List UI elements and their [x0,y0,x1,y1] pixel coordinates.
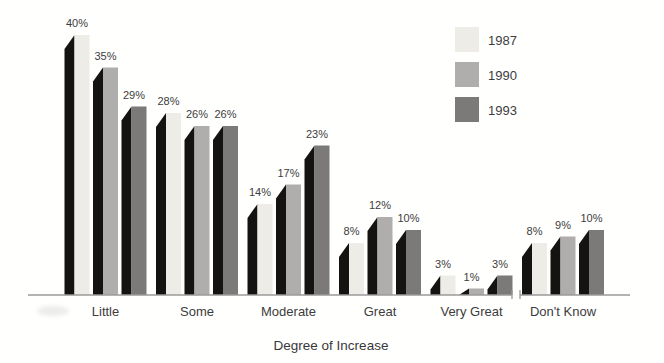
legend-label-1987: 1987 [488,33,517,48]
x-tick-label-moderate: Moderate [261,304,316,319]
value-label-don-t-know-1987: 8% [527,225,543,237]
bar-very-great-1993 [498,276,513,296]
bar-moderate-1993 [315,146,330,296]
bar-shadow-great-1987 [339,243,349,295]
value-label-don-t-know-1993: 10% [580,212,602,224]
value-label-some-1990: 26% [186,108,208,120]
legend-swatch-1990 [455,62,479,87]
bar-don-t-know-1993 [589,230,604,295]
bar-great-1993 [406,230,421,295]
bar-great-1990 [378,217,393,295]
value-label-some-1987: 28% [157,95,179,107]
value-label-moderate-1987: 14% [249,186,271,198]
value-label-little-1987: 40% [66,17,88,29]
x-tick-label-little: Little [92,304,119,319]
bar-shadow-very-great-1990 [459,289,469,296]
value-label-very-great-1990: 1% [464,271,480,283]
bar-little-1990 [103,68,118,296]
legend-item-1987: 1987 [455,27,517,52]
bar-little-1987 [75,35,90,295]
bar-great-1987 [349,243,364,295]
bar-shadow-great-1990 [368,217,378,295]
value-label-little-1993: 29% [123,89,145,101]
bar-some-1987 [166,113,181,295]
value-label-great-1990: 12% [369,199,391,211]
bar-shadow-great-1993 [396,230,406,295]
bar-don-t-know-1990 [561,237,576,296]
legend-label-1990: 1990 [488,68,517,83]
bar-shadow-some-1990 [185,126,195,295]
bars-layer: 40%35%29%28%26%26%14%17%23%8%12%10%3%1%3… [65,17,605,295]
bar-shadow-don-t-know-1993 [579,230,589,295]
legend-item-1993: 1993 [455,97,517,122]
value-label-moderate-1993: 23% [306,128,328,140]
bar-shadow-very-great-1987 [431,276,441,296]
x-axis-title: Degree of Increase [274,338,389,353]
legend-swatch-1993 [455,97,479,122]
bar-moderate-1987 [258,204,273,295]
value-label-some-1993: 26% [214,108,236,120]
bar-some-1990 [195,126,210,295]
bar-chart: 40%35%29%28%26%26%14%17%23%8%12%10%3%1%3… [0,0,664,363]
value-label-great-1993: 10% [397,212,419,224]
bar-shadow-very-great-1993 [488,276,498,296]
bar-shadow-moderate-1987 [248,204,258,295]
legend-label-1993: 1993 [488,103,517,118]
bar-shadow-moderate-1990 [276,185,286,296]
bar-shadow-some-1987 [156,113,166,295]
bar-don-t-know-1987 [532,243,547,295]
bar-very-great-1990 [469,289,484,296]
bar-shadow-don-t-know-1990 [551,237,561,296]
bar-very-great-1987 [441,276,456,296]
bar-shadow-little-1993 [122,107,132,296]
bar-moderate-1990 [286,185,301,296]
bar-shadow-don-t-know-1987 [522,243,532,295]
x-tick-label-some: Some [180,304,214,319]
bar-shadow-little-1987 [65,35,75,295]
x-tick-label-don-t-know: Don't Know [530,304,597,319]
x-tick-label-very-great: Very Great [440,304,503,319]
value-label-very-great-1993: 3% [492,258,508,270]
legend-item-1990: 1990 [455,62,517,87]
bar-little-1993 [132,107,147,296]
x-tick-label-great: Great [364,304,397,319]
value-label-little-1990: 35% [94,50,116,62]
bar-chart-figure: 40%35%29%28%26%26%14%17%23%8%12%10%3%1%3… [0,0,664,363]
scan-smudge [37,306,69,316]
legend: 1987 1990 1993 [455,27,517,122]
value-label-moderate-1990: 17% [277,167,299,179]
bar-some-1993 [223,126,238,295]
value-label-great-1987: 8% [344,225,360,237]
bar-shadow-moderate-1993 [305,146,315,296]
legend-swatch-1987 [455,27,479,52]
category-labels: LittleSomeModerateGreatVery GreatDon't K… [92,304,597,319]
value-label-don-t-know-1990: 9% [555,219,571,231]
value-label-very-great-1987: 3% [435,258,451,270]
bar-shadow-little-1990 [93,68,103,296]
bar-shadow-some-1993 [213,126,223,295]
